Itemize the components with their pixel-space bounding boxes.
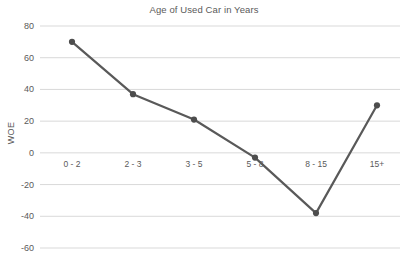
x-axis-tick-label: 15+ [370, 159, 384, 169]
y-axis-tick-label: 60 [0, 53, 34, 63]
chart-container: Age of Used Car in Years WOE 806040200-2… [0, 0, 408, 265]
x-axis-tick-label: 0 - 2 [63, 159, 80, 169]
y-axis-tick-label: -60 [0, 243, 34, 253]
y-axis-tick-label: 20 [0, 116, 34, 126]
y-axis-tick-label: -20 [0, 180, 34, 190]
x-axis-tick-label: 2 - 3 [124, 159, 141, 169]
data-point [374, 102, 380, 108]
data-point [313, 210, 319, 216]
y-axis-tick-label: 40 [0, 84, 34, 94]
x-axis-tick-label: 5 - 8 [246, 159, 263, 169]
data-line-series-woe [72, 42, 377, 213]
y-axis-tick-label: 0 [0, 148, 34, 158]
x-axis-tick-label: 3 - 5 [185, 159, 202, 169]
y-axis-tick-label: -40 [0, 211, 34, 221]
data-point [69, 39, 75, 45]
x-axis-tick-label: 8 - 15 [305, 159, 327, 169]
data-point [130, 91, 136, 97]
data-point [191, 116, 197, 122]
plot-area [0, 0, 408, 265]
y-axis-tick-label: 80 [0, 21, 34, 31]
data-point-markers [69, 39, 380, 216]
